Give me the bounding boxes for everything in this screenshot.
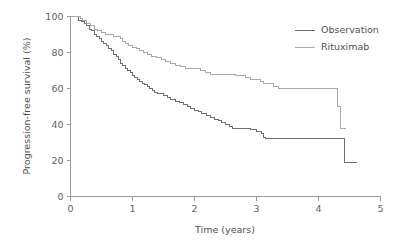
y-tick-label: 80	[51, 47, 63, 58]
x-tick-label: 4	[315, 203, 321, 214]
y-axis-ticks: 020406080100	[45, 11, 70, 202]
series-group	[71, 17, 357, 163]
x-axis-ticks: 012345	[67, 197, 383, 214]
x-tick-label: 3	[253, 203, 259, 214]
y-tick-label: 60	[51, 83, 63, 94]
legend-label-rituximab: Rituximab	[321, 41, 369, 52]
x-tick-label: 0	[67, 203, 73, 214]
y-tick-label: 0	[57, 191, 63, 202]
x-tick-label: 5	[377, 203, 383, 214]
chart-legend: ObservationRituximab	[295, 24, 379, 52]
x-axis-title: Time (years)	[194, 224, 255, 235]
y-tick-label: 20	[51, 155, 63, 166]
y-axis-title: Progression-free survival (%)	[21, 38, 32, 175]
kaplan-meier-chart: 020406080100 012345 ObservationRituximab…	[0, 0, 400, 252]
figure-container: 020406080100 012345 ObservationRituximab…	[0, 0, 400, 252]
series-line-rituximab	[71, 17, 346, 129]
x-tick-label: 2	[191, 203, 197, 214]
y-tick-label: 40	[51, 119, 63, 130]
x-tick-label: 1	[129, 203, 135, 214]
y-tick-label: 100	[45, 11, 63, 22]
series-line-observation	[71, 17, 357, 163]
legend-label-observation: Observation	[321, 24, 379, 35]
